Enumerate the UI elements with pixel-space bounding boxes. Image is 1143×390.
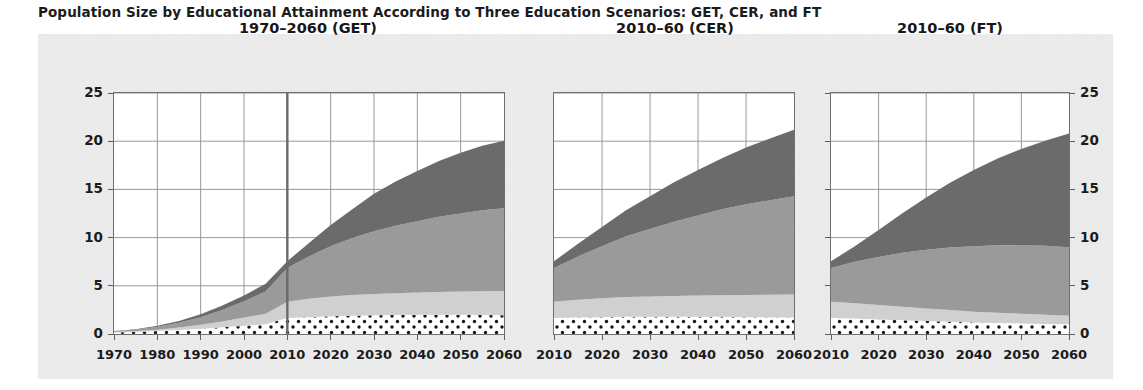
plot-area-3[interactable] (830, 92, 1070, 335)
x-tick-label: 2040 (948, 347, 1000, 362)
y-tickmark (1070, 285, 1075, 286)
x-tick-label: 2060 (1043, 347, 1095, 362)
y-tick-label-right: 25 (1080, 84, 1122, 100)
x-tickmark (926, 335, 927, 340)
y-tickmark (1070, 93, 1075, 94)
x-tickmark (878, 335, 879, 340)
chart-panel-3: 2010–60 (FT)2010202020302040205020600510… (0, 0, 1143, 390)
y-tick-label-right: 10 (1080, 229, 1122, 245)
y-tickmark (1070, 237, 1075, 238)
y-tick-label-right: 20 (1080, 132, 1122, 148)
x-tick-label: 2020 (853, 347, 905, 362)
x-tick-label: 2030 (900, 347, 952, 362)
y-tickmark (1070, 334, 1075, 335)
y-tick-label-right: 0 (1080, 325, 1122, 341)
y-tickmark (825, 285, 830, 286)
y-tickmark (1070, 189, 1075, 190)
x-tickmark (831, 335, 832, 340)
x-tickmark (1021, 335, 1022, 340)
panel-title-3: 2010–60 (FT) (800, 20, 1100, 36)
x-tick-label: 2050 (995, 347, 1047, 362)
y-tick-label-right: 15 (1080, 180, 1122, 196)
figure-container: Population Size by Educational Attainmen… (0, 0, 1143, 390)
y-tickmark (825, 141, 830, 142)
plot-svg-3 (831, 93, 1069, 334)
x-tickmark (973, 335, 974, 340)
y-tick-label-right: 5 (1080, 277, 1122, 293)
y-tickmark (825, 334, 830, 335)
y-tickmark (825, 237, 830, 238)
y-tickmark (825, 93, 830, 94)
y-tickmark (1070, 141, 1075, 142)
y-tickmark (825, 189, 830, 190)
x-tickmark (1069, 335, 1070, 340)
x-tick-label: 2010 (805, 347, 857, 362)
